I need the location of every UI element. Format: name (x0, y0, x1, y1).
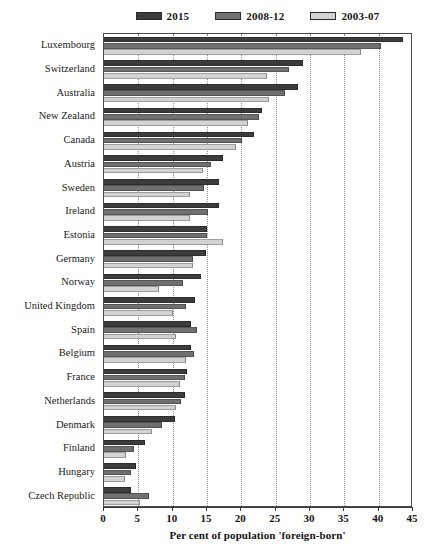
chart-legend: 20152008-122003-07 (103, 6, 412, 26)
y-axis-label: Luxembourg (0, 33, 99, 57)
bar-group (104, 247, 411, 271)
bar (104, 239, 223, 245)
x-axis-tick-label: 40 (372, 512, 383, 524)
bar (104, 334, 176, 340)
bar (104, 369, 187, 375)
bar (104, 90, 285, 96)
x-axis-tick-label: 45 (407, 512, 418, 524)
y-axis-label: Belgium (0, 341, 99, 365)
bar-group (104, 295, 411, 319)
bar (104, 493, 149, 499)
bar (104, 440, 145, 446)
bar-group (104, 105, 411, 129)
x-axis-tick-label: 35 (338, 512, 349, 524)
bar (104, 487, 131, 493)
y-axis-labels: LuxembourgSwitzerlandAustraliaNew Zealan… (0, 33, 99, 507)
x-axis-tick-label: 20 (235, 512, 246, 524)
x-axis-title: Per cent of population 'foreign-born' (103, 529, 412, 541)
bar-group (104, 129, 411, 153)
bar (104, 233, 207, 239)
bar-group (104, 390, 411, 414)
bar (104, 67, 289, 73)
bar-group (104, 413, 411, 437)
bar (104, 392, 185, 398)
x-axis-tick (103, 507, 104, 511)
legend-label: 2015 (167, 10, 190, 22)
bar-rows (104, 34, 411, 506)
bar (104, 263, 193, 269)
bar (104, 470, 131, 476)
bar (104, 405, 176, 411)
bar (104, 422, 162, 428)
y-axis-label: Hungary (0, 460, 99, 484)
x-axis-tick (378, 507, 379, 511)
bar-group (104, 58, 411, 82)
bar (104, 416, 175, 422)
bar (104, 357, 186, 363)
y-axis-label: United Kingdom (0, 294, 99, 318)
bar (104, 500, 140, 506)
x-axis-tick (412, 507, 413, 511)
bar (104, 132, 254, 138)
bar (104, 256, 193, 262)
bar (104, 43, 381, 49)
bar (104, 429, 152, 435)
bar (104, 304, 186, 310)
bar (104, 446, 134, 452)
y-axis-label: New Zealand (0, 104, 99, 128)
bar (104, 120, 248, 126)
legend-item[interactable]: 2008-12 (215, 10, 284, 22)
bar-group (104, 342, 411, 366)
x-axis-tick (343, 507, 344, 511)
x-axis-tick-label: 10 (166, 512, 177, 524)
x-axis-tick (275, 507, 276, 511)
y-axis-label: Australia (0, 80, 99, 104)
x-axis-tick-label: 15 (201, 512, 212, 524)
bar (104, 399, 181, 405)
x-axis-tick-label: 25 (269, 512, 280, 524)
x-axis-tick (309, 507, 310, 511)
y-axis-label: Denmark (0, 412, 99, 436)
bar (104, 155, 223, 161)
x-axis-tick (240, 507, 241, 511)
y-axis-label: Norway (0, 270, 99, 294)
bar (104, 297, 195, 303)
bar-group (104, 153, 411, 177)
legend-swatch (310, 12, 336, 20)
bar (104, 84, 298, 90)
bar (104, 37, 403, 43)
x-axis-tick (206, 507, 207, 511)
bar (104, 60, 303, 66)
bar-chart: 20152008-122003-07 LuxembourgSwitzerland… (0, 0, 428, 550)
bar-group (104, 176, 411, 200)
bar (104, 351, 194, 357)
bar (104, 476, 125, 482)
bar (104, 97, 269, 103)
bar (104, 162, 211, 168)
bar (104, 226, 207, 232)
bar (104, 321, 191, 327)
bar (104, 138, 242, 144)
y-axis-label: Canada (0, 128, 99, 152)
bar (104, 345, 191, 351)
bar-group (104, 224, 411, 248)
y-axis-label: Germany (0, 246, 99, 270)
bar-group (104, 437, 411, 461)
y-axis-label: France (0, 365, 99, 389)
y-axis-label: Netherlands (0, 389, 99, 413)
bar (104, 250, 206, 256)
bar (104, 274, 201, 280)
bar-group (104, 318, 411, 342)
bar (104, 73, 267, 79)
legend-swatch (215, 12, 241, 20)
y-axis-label: Estonia (0, 223, 99, 247)
bar (104, 310, 173, 316)
bar-group (104, 34, 411, 58)
legend-item[interactable]: 2015 (136, 10, 190, 22)
y-axis-label: Sweden (0, 175, 99, 199)
y-axis-label: Spain (0, 317, 99, 341)
x-axis-tick-label: 30 (304, 512, 315, 524)
legend-swatch (136, 12, 162, 20)
legend-item[interactable]: 2003-07 (310, 10, 379, 22)
bar-group (104, 484, 411, 507)
